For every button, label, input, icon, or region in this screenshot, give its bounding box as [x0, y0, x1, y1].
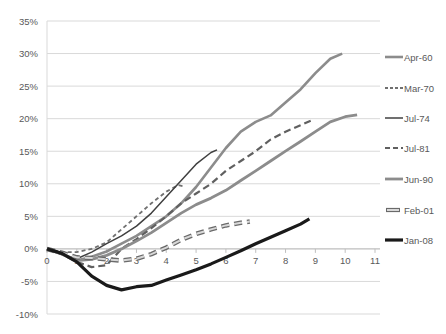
y-tick-label: 25%	[19, 81, 39, 92]
legend-item-mar-70: Mar-70	[385, 83, 434, 94]
x-tick-label: 4	[164, 255, 169, 266]
legend-label: Jan-08	[404, 235, 433, 246]
x-tick-label: 8	[283, 255, 288, 266]
legend-item-jul-74: Jul-74	[385, 113, 430, 124]
legend-label: Jul-81	[404, 143, 430, 154]
legend-item-apr-60: Apr-60	[385, 52, 433, 63]
legend-item-jan-08: Jan-08	[385, 235, 433, 246]
x-tick-label: 11	[370, 255, 380, 266]
x-tick-label: 5	[193, 255, 198, 266]
y-tick-label: 35%	[19, 16, 39, 27]
series-lines	[47, 54, 357, 290]
legend-item-jul-81: Jul-81	[385, 143, 430, 154]
legend: Apr-60Mar-70Jul-74Jul-81Jun-90Feb-01Jan-…	[385, 52, 434, 246]
y-tick-label: 5%	[24, 211, 38, 222]
y-tick-label: 10%	[19, 178, 39, 189]
legend-label: Jul-74	[404, 113, 430, 124]
series-line-jul-81	[47, 120, 312, 267]
y-tick-label: 20%	[19, 113, 39, 124]
series-line-apr-60	[47, 54, 342, 261]
legend-label: Feb-01	[404, 205, 434, 216]
y-tick-label: 0%	[24, 243, 38, 254]
y-tick-label: -10%	[16, 309, 39, 320]
y-tick-label: 15%	[19, 146, 39, 157]
legend-item-feb-01: Feb-01	[386, 205, 434, 216]
x-tick-label: 9	[313, 255, 318, 266]
gridlines	[47, 21, 380, 314]
y-axis-ticks: -10%-5%0%5%10%15%20%25%30%35%	[16, 16, 39, 320]
legend-label: Apr-60	[404, 52, 433, 63]
line-chart: -10%-5%0%5%10%15%20%25%30%35% 0123456789…	[0, 0, 446, 334]
legend-item-jun-90: Jun-90	[385, 174, 433, 185]
y-tick-label: -5%	[21, 276, 38, 287]
legend-label: Mar-70	[404, 83, 434, 94]
x-tick-label: 7	[253, 255, 258, 266]
x-tick-label: 10	[340, 255, 351, 266]
legend-label: Jun-90	[404, 174, 433, 185]
chart-svg: -10%-5%0%5%10%15%20%25%30%35% 0123456789…	[0, 0, 446, 334]
y-tick-label: 30%	[19, 48, 39, 59]
series-line-jun-90	[47, 115, 357, 261]
x-tick-label: 0	[44, 255, 49, 266]
